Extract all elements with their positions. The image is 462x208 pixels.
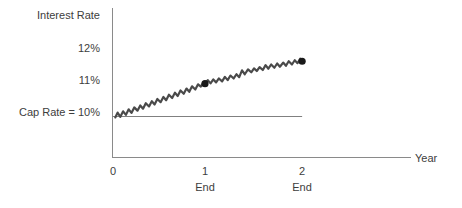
y-tick-label-12: 12% — [78, 43, 100, 54]
x-tick-group-2: 2 End — [282, 166, 322, 193]
end-of-year-2-marker — [299, 58, 306, 65]
interest-rate-chart: Interest Rate 12% 11% Cap Rate = 10% 0 1… — [0, 0, 462, 208]
x-axis-title: Year — [415, 152, 437, 164]
cap-rate-label: Cap Rate = 10% — [19, 107, 100, 118]
x-tick-group-1: 1 End — [185, 166, 225, 193]
x-tick-group-0: 0 — [93, 166, 133, 182]
x-tick-label-1: 1 — [185, 166, 225, 177]
y-axis-title: Interest Rate — [37, 9, 100, 21]
x-sub-tick-label-2: End — [282, 182, 322, 193]
interest-rate-path-year1 — [115, 82, 205, 117]
interest-rate-path-year2 — [205, 59, 302, 84]
end-of-year-1-marker — [201, 80, 208, 87]
chart-canvas — [0, 0, 462, 208]
y-tick-label-11: 11% — [79, 75, 100, 86]
x-tick-label-2: 2 — [282, 166, 322, 177]
x-sub-tick-label-1: End — [185, 182, 225, 193]
x-tick-label-0: 0 — [93, 166, 133, 177]
